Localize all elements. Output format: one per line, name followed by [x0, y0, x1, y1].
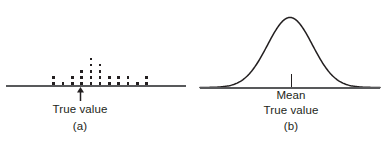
up-arrow-icon [76, 87, 85, 101]
dot-marker [99, 64, 102, 67]
dot-marker [127, 76, 130, 79]
dot-marker [80, 76, 83, 79]
dot-column [142, 76, 151, 85]
dot-marker [99, 82, 102, 85]
dot-column [133, 82, 142, 85]
dot-marker [71, 82, 74, 85]
dotplot-a [49, 37, 151, 85]
dot-column [58, 82, 67, 85]
axis-label-true-value-b: True value [231, 104, 351, 117]
dot-marker [108, 76, 111, 79]
dot-marker [80, 70, 83, 73]
dot-column [114, 76, 123, 85]
dot-column [123, 76, 132, 85]
tick-mark-icon [291, 74, 292, 87]
dot-marker [90, 64, 93, 67]
dot-marker [117, 76, 120, 79]
dot-column [49, 76, 58, 85]
dot-marker [52, 82, 55, 85]
dot-column [68, 76, 77, 85]
dot-marker [117, 82, 120, 85]
dot-column [95, 64, 104, 85]
panel-caption-a: (a) [0, 120, 160, 133]
dot-marker [145, 76, 148, 79]
center-label-mean: Mean [231, 89, 351, 102]
dot-marker [99, 70, 102, 73]
axis-line-a [6, 85, 186, 87]
dot-marker [90, 76, 93, 79]
dot-marker [90, 58, 93, 61]
figure-container: True value (a) Mean True value (b) [0, 0, 386, 143]
dot-column [86, 58, 95, 85]
dot-column [105, 76, 114, 85]
dot-marker [90, 82, 93, 85]
dot-column [77, 70, 86, 85]
dot-marker [62, 82, 65, 85]
dot-marker [90, 70, 93, 73]
dot-marker [71, 76, 74, 79]
panel-b: Mean True value (b) [193, 0, 386, 143]
dot-marker [80, 82, 83, 85]
dot-marker [127, 82, 130, 85]
axis-label-true-value-a: True value [0, 103, 160, 116]
panel-a: True value (a) [0, 0, 193, 143]
dot-marker [136, 82, 139, 85]
dot-marker [99, 76, 102, 79]
dot-marker [108, 82, 111, 85]
dot-marker [145, 82, 148, 85]
dot-marker [52, 76, 55, 79]
panel-caption-b: (b) [231, 120, 351, 133]
